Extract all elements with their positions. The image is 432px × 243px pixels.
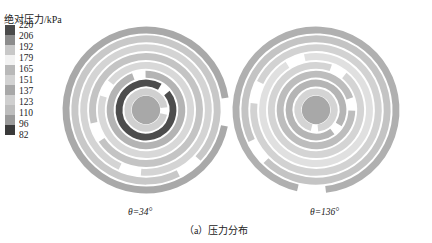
contour-core [132,96,160,124]
figure-caption: （a）压力分布 [184,222,248,237]
contour-core [302,96,330,124]
panel-theta-34 [62,26,230,194]
panel-label-1: θ=34° [128,207,152,217]
panel-theta-136 [232,26,400,194]
panel-label-2: θ=136° [310,207,339,217]
pressure-contours [0,0,432,243]
